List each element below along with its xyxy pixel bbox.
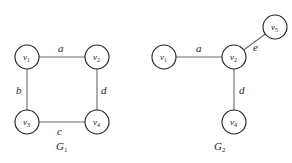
graph-g1: a b c d v1 v2 v3 v4 G1	[15, 42, 109, 154]
edge-label-a: a	[196, 42, 202, 54]
node-v1: v1	[15, 45, 39, 69]
edge-label-c: c	[57, 125, 62, 137]
edge-label-e: e	[253, 41, 258, 53]
node-v4: v4	[85, 110, 109, 134]
node-v4: v4	[222, 110, 246, 134]
node-v2: v2	[85, 45, 109, 69]
edge-label-a: a	[58, 42, 64, 54]
node-v1: v1	[152, 45, 176, 69]
edge-label-b: b	[16, 84, 22, 96]
edge-label-d: d	[101, 84, 107, 96]
edge-label-d: d	[239, 84, 245, 96]
node-v3: v3	[15, 110, 39, 134]
node-v5: v5	[263, 15, 287, 39]
graph-title-g2: G2	[214, 140, 226, 154]
graph-g2: a e d v1 v2 v5 v4 G2	[152, 15, 287, 154]
graph-diagram: a b c d v1 v2 v3 v4 G1 a e d v1	[0, 0, 292, 163]
graph-title-g1: G1	[56, 140, 68, 154]
node-v2: v2	[222, 45, 246, 69]
